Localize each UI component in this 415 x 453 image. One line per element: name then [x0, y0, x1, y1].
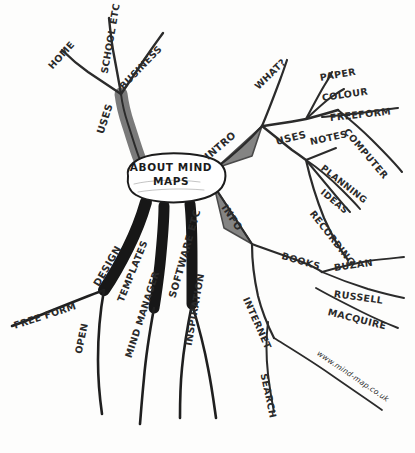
branch-templates-trunk — [154, 206, 164, 308]
branch-notes-stroke — [306, 148, 336, 160]
branch-uses-right-stroke — [262, 110, 338, 126]
branch-strokes — [12, 18, 404, 424]
center-node-line-2: MAPS — [123, 174, 219, 188]
branch-open-stroke — [98, 290, 104, 414]
branch-url-stroke — [274, 338, 382, 410]
center-node[interactable]: ABOUT MIND MAPS — [123, 160, 219, 188]
center-node-line-1: ABOUT MIND — [123, 160, 219, 174]
mindmap-canvas: ABOUT MIND MAPS USES HOME SCHOOL ETC BUS… — [0, 0, 415, 453]
